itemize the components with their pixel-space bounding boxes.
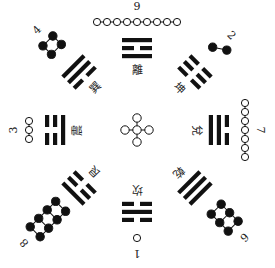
bagua-canvas: 離9坤2兌7乾6坎1艮8震3巽4: [0, 0, 275, 268]
trigram-name: 坎: [132, 183, 143, 196]
trigram-name: 巽: [86, 79, 103, 96]
trigram-name: 離: [132, 63, 143, 77]
number-dots: [205, 198, 244, 237]
trigram-lines: [45, 115, 65, 145]
trigram-bottom: 坎1: [122, 183, 152, 260]
position-number: 9: [134, 0, 141, 13]
trigram-lines: [209, 115, 229, 145]
trigram-name: 兌: [190, 125, 203, 136]
position-number: 6: [237, 230, 251, 244]
center-five-dots: [121, 114, 153, 146]
trigram-top-left: 巽4: [22, 15, 110, 103]
position-number: 1: [134, 247, 141, 260]
position-number: 3: [7, 127, 20, 134]
trigram-name: 震: [71, 125, 84, 136]
position-number: 8: [17, 236, 31, 250]
number-dots: [37, 30, 67, 60]
number-dots: [133, 234, 140, 241]
trigram-right: 兌7: [190, 99, 267, 160]
trigram-bottom-left: 艮8: [9, 157, 110, 258]
position-number: 2: [224, 29, 238, 43]
number-dots: [93, 18, 180, 25]
trigram-top: 離9: [93, 0, 180, 77]
trigram-lines: [122, 202, 152, 222]
position-number: 7: [254, 127, 267, 134]
number-dots: [24, 195, 71, 242]
trigram-lines: [122, 38, 152, 58]
bagua-diagram: 離9坤2兌7乾6坎1艮8震3巽4: [0, 0, 275, 268]
trigram-bottom-right: 乾6: [164, 157, 259, 252]
trigram-name: 艮: [86, 164, 103, 181]
number-dots: [25, 117, 32, 142]
trigram-top-right: 坤2: [164, 20, 247, 103]
trigram-name: 坤: [171, 79, 189, 97]
position-number: 4: [30, 23, 44, 37]
number-dots: [241, 99, 248, 160]
trigram-left: 震3: [7, 115, 84, 145]
trigram-name: 乾: [171, 164, 188, 181]
